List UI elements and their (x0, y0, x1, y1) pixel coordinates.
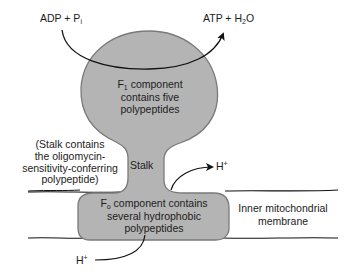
proton-in-label: H+ (76, 254, 88, 267)
stalk-note: (Stalk contains the oligomycin- sensitiv… (18, 139, 122, 186)
stalk-label: Stalk (130, 159, 153, 172)
atp-synthase-diagram: ADP + Pi ATP + H2O F1 component contains… (0, 0, 354, 273)
stalk-note-underline (28, 190, 80, 191)
substrate-label: ADP + Pi (40, 12, 82, 25)
f0-component-label: Fo component contains several hydrophobi… (84, 197, 224, 235)
membrane-label: Inner mitochondrial membrane (233, 202, 333, 227)
product-label: ATP + H2O (203, 12, 254, 25)
proton-out-arrow (171, 167, 212, 190)
f1-component-label: F1 component contains five polypeptides (104, 78, 196, 116)
proton-out-label: H+ (216, 160, 228, 173)
